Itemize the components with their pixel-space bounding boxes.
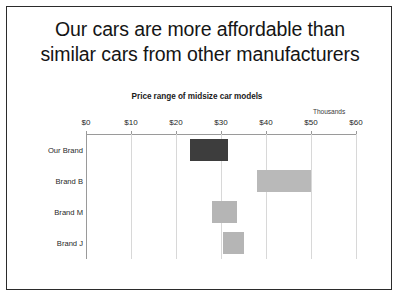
- bar-our-brand: [190, 139, 228, 161]
- chart-title: Price range of midsize car models: [7, 92, 387, 101]
- x-tick-label-4: $40: [259, 118, 272, 127]
- x-tickmark-6: [356, 131, 357, 134]
- x-tickmark-1: [131, 131, 132, 134]
- bar-brand-b: [257, 170, 311, 192]
- gridline-5: [311, 134, 312, 259]
- x-tick-label-6: $60: [349, 118, 362, 127]
- gridline-1: [131, 134, 132, 259]
- y-axis-line: [86, 134, 87, 259]
- slide-canvas: Our cars are more affordable than simila…: [6, 6, 392, 290]
- x-tickmark-3: [221, 131, 222, 134]
- y-category-label-0: Our Brand: [15, 145, 83, 154]
- x-axis-tick-labels: $0$10$20$30$40$50$60: [7, 118, 392, 130]
- y-category-label-3: Brand J: [15, 239, 83, 248]
- x-tickmark-2: [176, 131, 177, 134]
- y-category-label-1: Brand B: [15, 176, 83, 185]
- units-note-label: Thousands: [313, 108, 345, 115]
- gridline-2: [176, 134, 177, 259]
- bar-brand-j: [223, 232, 243, 254]
- price-range-chart: Price range of midsize car models Thousa…: [7, 7, 392, 290]
- x-tick-label-3: $30: [214, 118, 227, 127]
- gridline-6: [356, 134, 357, 259]
- x-tick-label-1: $10: [124, 118, 137, 127]
- x-tickmark-5: [311, 131, 312, 134]
- x-tick-label-2: $20: [169, 118, 182, 127]
- y-category-label-2: Brand M: [15, 208, 83, 217]
- y-axis-category-labels: Our BrandBrand BBrand MBrand J: [15, 134, 83, 259]
- bar-brand-m: [212, 201, 237, 223]
- x-tickmark-4: [266, 131, 267, 134]
- x-tick-label-5: $50: [304, 118, 317, 127]
- x-tick-label-0: $0: [82, 118, 91, 127]
- x-tickmark-0: [86, 131, 87, 134]
- plot-area: [86, 134, 356, 259]
- gridline-4: [266, 134, 267, 259]
